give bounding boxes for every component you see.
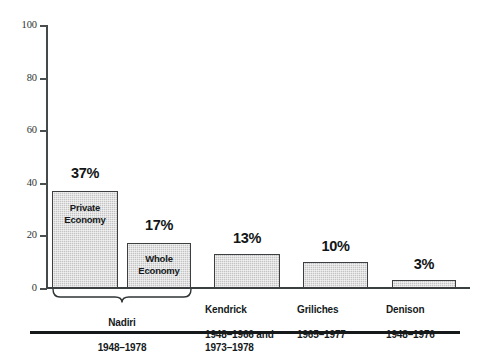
bar-kendrick [214, 254, 280, 288]
bar-denison [392, 280, 456, 288]
group-period-nadiri: 1948–1978 [98, 342, 147, 353]
group-name-kendrick: Kendrick [205, 304, 247, 315]
bar-label-private-economy-line1: Private [53, 202, 117, 214]
bar-private-economy: Private Economy [52, 191, 118, 288]
y-tick-label-20: 20 [27, 230, 37, 241]
y-axis-line [46, 25, 48, 289]
value-label-griliches: 10% [303, 239, 368, 254]
bar-label-private-economy-line2: Economy [53, 214, 117, 226]
y-tick-label-40: 40 [27, 178, 37, 189]
value-label-whole-economy: 17% [127, 218, 191, 233]
value-label-private-economy: 37% [52, 166, 118, 181]
y-tick-label-60: 60 [27, 125, 37, 136]
bar-griliches [303, 262, 368, 288]
group-brace-nadiri [52, 289, 192, 303]
bar-label-whole-economy-line1: Whole [128, 253, 190, 265]
value-label-denison: 3% [392, 257, 456, 272]
group-name-denison: Denison [386, 304, 424, 315]
group-name-griliches: Griliches [297, 304, 338, 315]
y-tick-80 [40, 78, 47, 80]
group-name-nadiri: Nadiri [108, 317, 135, 328]
group-label-nadiri: Nadiri 1948–1978 [52, 305, 192, 355]
bottom-rule [30, 331, 460, 334]
y-tick-label-100: 100 [22, 20, 37, 31]
y-tick-20 [40, 235, 47, 237]
y-tick-label-80: 80 [27, 73, 37, 84]
bar-label-whole-economy-line2: Economy [128, 265, 190, 277]
y-tick-100 [40, 25, 47, 27]
y-tick-40 [40, 183, 47, 185]
value-label-kendrick: 13% [214, 231, 280, 246]
y-tick-60 [40, 130, 47, 132]
y-tick-label-0: 0 [32, 283, 37, 294]
bar-whole-economy: Whole Economy [127, 243, 191, 288]
y-tick-0 [40, 288, 47, 290]
group-label-kendrick: Kendrick 1948–1966 and 1973–1978 [205, 292, 297, 354]
